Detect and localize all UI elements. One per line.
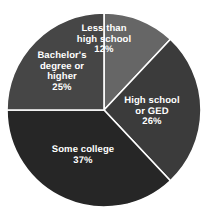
slice-label-high-school-or-ged: High school or GED 26% [124,96,179,128]
slice-label-line2: high school [77,34,131,45]
slice-value-high-school-or-ged: 26% [124,117,179,128]
slice-label-line1: Some college [52,144,114,155]
slice-label-line2: degree or [40,61,84,72]
slice-label-line1: Less than [81,23,126,34]
slice-label-bachelors-degree-or-higher: Bachelor's degree or higher 25% [37,51,86,93]
slice-value-some-college: 37% [52,156,114,167]
slice-label-line1: Bachelor's [37,50,86,61]
slice-label-some-college: Some college 37% [52,145,114,166]
slice-label-line3: higher [47,71,77,82]
slice-value-bachelors-degree-or-higher: 25% [37,83,86,94]
slice-label-line2: or GED [135,106,168,117]
slice-label-line1: High school [124,95,179,106]
pie-chart: Less than high school 12% High school or… [0,0,210,221]
